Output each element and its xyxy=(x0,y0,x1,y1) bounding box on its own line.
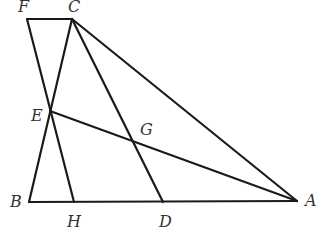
point-label-f: F xyxy=(17,0,30,16)
segments xyxy=(27,19,297,202)
point-label-g: G xyxy=(140,120,153,139)
point-label-c: C xyxy=(68,0,80,16)
geometry-diagram: FCEGBHDA xyxy=(0,0,321,232)
point-label-a: A xyxy=(303,191,317,210)
segment-ea xyxy=(50,111,297,201)
segment-ca xyxy=(72,19,297,201)
point-labels: FCEGBHDA xyxy=(9,0,317,231)
point-label-h: H xyxy=(66,212,82,231)
point-label-b: B xyxy=(9,192,22,211)
segment-cd xyxy=(72,19,163,202)
point-label-d: D xyxy=(158,212,172,231)
point-label-e: E xyxy=(30,106,43,125)
